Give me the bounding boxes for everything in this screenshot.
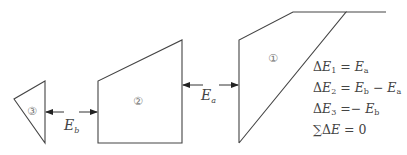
slice-2-label: ② [133,95,143,108]
eq-term: E [322,80,331,95]
delta-symbol: Δ [313,101,322,116]
equations-block: ΔE1 = Ea ΔE2 = Eb − Ea ΔE3 =− Eb ∑ΔE = 0 [313,58,401,138]
eq-subscript: a [364,66,369,75]
slice-3-label: ③ [27,105,37,118]
eq-term: E [355,80,364,95]
eq-operator: = [336,80,354,95]
eq-subscript: a [396,87,401,96]
delta-symbol: Δ [313,80,322,95]
delta-symbol: Δ [313,59,322,74]
sum-symbol: ∑ [313,122,322,137]
eq-term: E [322,59,331,74]
eq-term: E [365,101,374,116]
eq-operator: = [340,122,358,137]
force-b-label: Eb [63,117,79,135]
eq-term: E [322,101,331,116]
eq-term: E [355,59,364,74]
eq-value: 0 [359,122,367,137]
equation-3: ΔE3 =− Eb [313,100,401,121]
slice-1-label: ① [268,52,278,65]
equation-4: ∑ΔE = 0 [313,121,401,138]
slice-2-outline [98,40,182,143]
delta-symbol: Δ [322,122,331,137]
force-a-label: Ea [200,87,216,105]
eq-operator: = [336,59,354,74]
eq-operator: =− [336,101,365,116]
eq-term: E [331,122,340,137]
equation-2: ΔE2 = Eb − Ea [313,79,401,100]
eq-operator: − [369,80,387,95]
equation-1: ΔE1 = Ea [313,58,401,79]
eq-subscript: b [374,108,379,117]
